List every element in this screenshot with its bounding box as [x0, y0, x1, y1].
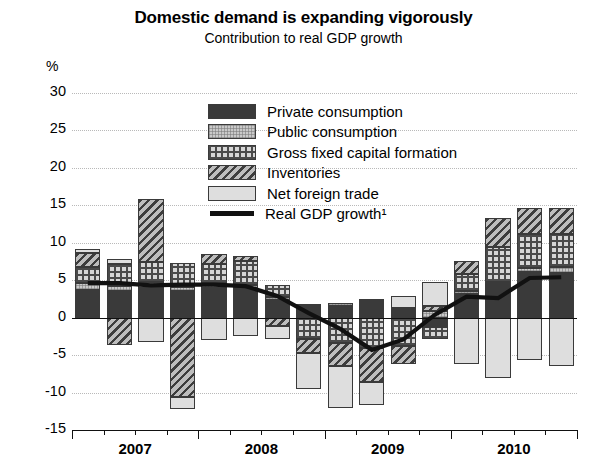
bar-segment-inventories	[422, 306, 447, 311]
x-axis-minor-tick	[514, 430, 515, 435]
legend-swatch-cross-hatch-grid	[208, 145, 256, 160]
zero-line	[72, 318, 577, 319]
bar-segment-gross-fixed-capital-formation	[328, 318, 353, 343]
bar-segment-gross-fixed-capital-formation	[485, 247, 510, 282]
bar-segment-public-consumption	[454, 291, 479, 295]
bar-segment-net-foreign-trade	[107, 259, 132, 264]
bar-segment-gross-fixed-capital-formation	[265, 285, 290, 296]
bar-segment-net-foreign-trade	[328, 366, 353, 408]
bar-segment-net-foreign-trade	[138, 318, 163, 342]
bar-segment-private-consumption	[549, 273, 574, 318]
x-axis-minor-tick	[261, 430, 262, 435]
x-axis-minor-tick	[356, 430, 357, 435]
x-axis-major-tick	[577, 430, 578, 439]
y-axis-tick-label: 20	[6, 158, 66, 174]
bar-segment-private-consumption	[233, 288, 258, 317]
bar-segment-public-consumption	[265, 297, 290, 300]
bar-segment-inventories	[75, 253, 100, 266]
legend-label: Inventories	[267, 164, 340, 181]
legend-swatch-solid-dark	[208, 104, 256, 119]
legend-swatch-light-plain	[208, 186, 256, 201]
y-axis-tick-label: -10	[6, 383, 66, 399]
bar-segment-gross-fixed-capital-formation	[201, 264, 226, 283]
legend-item: Public consumption	[208, 122, 457, 143]
bar-segment-net-foreign-trade	[359, 382, 384, 404]
x-axis-minor-tick	[135, 430, 136, 435]
y-axis-tick-label: -15	[6, 420, 66, 436]
bar-segment-public-consumption	[517, 268, 542, 272]
bar-segment-net-foreign-trade	[233, 318, 258, 336]
bar-segment-gross-fixed-capital-formation	[233, 261, 258, 285]
bar-segment-private-consumption	[391, 310, 416, 317]
bar-segment-public-consumption	[359, 299, 384, 301]
y-axis-tick-label: 25	[6, 120, 66, 136]
bar-segment-private-consumption	[201, 288, 226, 318]
bar-segment-public-consumption	[138, 282, 163, 287]
x-axis-minor-tick	[167, 430, 168, 435]
legend-label: Public consumption	[267, 123, 397, 140]
bar-segment-net-foreign-trade	[549, 318, 574, 367]
bar-segment-gross-fixed-capital-formation	[391, 318, 416, 346]
x-axis-minor-tick	[104, 430, 105, 435]
chart-root: Domestic demand is expanding vigorously …	[0, 0, 607, 474]
bar-segment-public-consumption	[75, 283, 100, 290]
x-axis-year-label: 2007	[95, 440, 175, 457]
chart-legend: Private consumptionPublic consumptionGro…	[208, 101, 457, 224]
legend-item: Net foreign trade	[208, 183, 457, 204]
stacked-bar	[170, 93, 195, 430]
bar-segment-private-consumption	[485, 284, 510, 318]
bar-segment-private-consumption	[422, 318, 447, 327]
chart-subtitle: Contribution to real GDP growth	[0, 30, 607, 46]
y-axis-tick-label: 10	[6, 233, 66, 249]
bar-segment-public-consumption	[201, 283, 226, 287]
bar-segment-inventories	[201, 254, 226, 264]
bar-segment-gross-fixed-capital-formation	[454, 274, 479, 290]
bar-segment-inventories	[549, 208, 574, 233]
stacked-bar	[485, 93, 510, 430]
bar-segment-gross-fixed-capital-formation	[75, 267, 100, 283]
bar-segment-inventories	[107, 318, 132, 345]
bar-segment-public-consumption	[170, 287, 195, 291]
x-axis-major-tick	[198, 430, 199, 439]
bar-segment-private-consumption	[328, 306, 353, 317]
x-axis-year-label: 2009	[348, 440, 428, 457]
stacked-bar	[549, 93, 574, 430]
legend-label: Gross fixed capital formation	[267, 144, 457, 161]
chart-title: Domestic demand is expanding vigorously	[0, 8, 607, 28]
x-axis-minor-tick	[482, 430, 483, 435]
stacked-bar	[75, 93, 100, 430]
x-axis-minor-tick	[419, 430, 420, 435]
bar-segment-inventories	[517, 208, 542, 234]
bar-segment-public-consumption	[233, 285, 258, 289]
bar-segment-private-consumption	[107, 291, 132, 318]
legend-item: Inventories	[208, 163, 457, 184]
y-axis-unit-label: %	[46, 58, 58, 74]
bar-segment-gross-fixed-capital-formation	[359, 318, 384, 349]
y-axis-tick-label: 15	[6, 195, 66, 211]
legend-swatch-fine-dotted	[208, 124, 256, 139]
y-axis-tick-label: 30	[6, 83, 66, 99]
bar-segment-inventories	[359, 348, 384, 382]
bar-segment-public-consumption	[328, 303, 353, 306]
bar-segment-net-foreign-trade	[485, 318, 510, 379]
stacked-bar	[454, 93, 479, 430]
legend-label: Net foreign trade	[267, 185, 379, 202]
x-axis-major-tick	[72, 430, 73, 439]
y-axis-tick-label: 5	[6, 270, 66, 286]
bar-segment-private-consumption	[265, 300, 290, 318]
x-axis-minor-tick	[293, 430, 294, 435]
bar-segment-private-consumption	[517, 272, 542, 318]
bar-segment-gross-fixed-capital-formation	[138, 262, 163, 282]
legend-item: Real GDP growth¹	[208, 204, 457, 225]
legend-label: Real GDP growth¹	[265, 205, 386, 222]
bar-segment-inventories	[454, 261, 479, 274]
bar-segment-private-consumption	[75, 290, 100, 318]
x-axis-minor-tick	[388, 430, 389, 435]
bar-segment-net-foreign-trade	[170, 397, 195, 409]
legend-item: Private consumption	[208, 101, 457, 122]
bar-segment-gross-fixed-capital-formation	[422, 327, 447, 340]
y-axis-tick-label: 0	[6, 308, 66, 324]
bar-segment-private-consumption	[170, 291, 195, 318]
bar-segment-public-consumption	[107, 286, 132, 290]
bar-segment-net-foreign-trade	[201, 318, 226, 340]
